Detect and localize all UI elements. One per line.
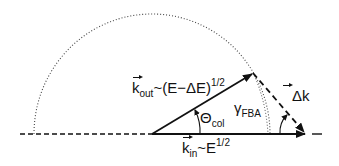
- energy-circle: [34, 14, 270, 134]
- gamma-fba-label: γFBA: [234, 100, 261, 115]
- k-in-label: kin~E1/2: [182, 140, 230, 155]
- k-out-label: kout~(E−ΔE)1/2: [132, 80, 225, 95]
- theta-col-label: Θcol: [200, 110, 224, 125]
- delta-k-label: Δk: [282, 88, 310, 103]
- gamma-arc: [280, 115, 287, 134]
